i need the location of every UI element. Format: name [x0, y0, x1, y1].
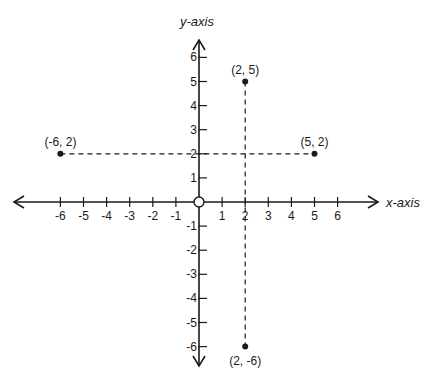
- x-tick-label: 2: [242, 209, 249, 223]
- x-tick-label: 1: [219, 209, 226, 223]
- x-tick-label: -5: [78, 209, 89, 223]
- x-tick-label: 6: [334, 209, 341, 223]
- x-tick-label: -2: [147, 209, 158, 223]
- y-tick-label: 2: [190, 147, 197, 161]
- y-tick-label: 3: [190, 123, 197, 137]
- x-tick-label: -1: [171, 209, 182, 223]
- data-point-label: (2, 5): [231, 63, 259, 77]
- data-point: [312, 151, 318, 157]
- y-tick-label: -1: [186, 219, 197, 233]
- x-tick-label: -4: [101, 209, 112, 223]
- y-tick-label: 1: [190, 171, 197, 185]
- y-tick-label: 6: [190, 50, 197, 64]
- data-point-label: (-6, 2): [44, 135, 76, 149]
- origin-marker: [194, 197, 204, 207]
- data-point-label: (2, -6): [229, 354, 261, 368]
- y-tick-label: -2: [186, 243, 197, 257]
- y-tick-label: -3: [186, 267, 197, 281]
- y-tick-label: -4: [186, 291, 197, 305]
- data-point: [57, 151, 63, 157]
- y-tick-label: 4: [190, 99, 197, 113]
- coordinate-plane: -6-5-4-3-2-1123456-6-5-4-3-2-1123456 (-6…: [0, 0, 432, 384]
- x-tick-label: -6: [55, 209, 66, 223]
- y-axis-label: y-axis: [179, 14, 214, 29]
- y-tick-label: 5: [190, 75, 197, 89]
- x-tick-label: 4: [288, 209, 295, 223]
- y-tick-label: -6: [186, 340, 197, 354]
- data-point-label: (5, 2): [300, 135, 328, 149]
- y-tick-label: -5: [186, 316, 197, 330]
- data-point: [242, 344, 248, 350]
- data-point: [242, 79, 248, 85]
- x-tick-label: 3: [265, 209, 272, 223]
- x-axis-label: x-axis: [385, 195, 420, 210]
- x-tick-label: 5: [311, 209, 318, 223]
- x-tick-label: -3: [124, 209, 135, 223]
